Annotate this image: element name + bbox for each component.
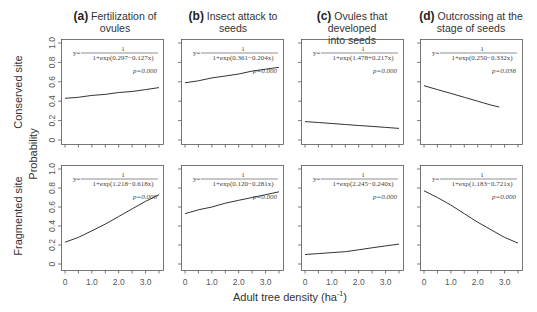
panel-c-conserved: y=11+exp(1.478+0.217x)p=0.000 [298, 40, 404, 148]
panel-d-conserved: y=11+exp(0.250−0.332x)p=0.038 [417, 40, 523, 148]
equation-denominator: 1+exp(2.245−0.240x) [332, 180, 394, 188]
plots-canvas: 00.20.40.60.81.0y=11+exp(0.297−0.127x)p=… [0, 0, 537, 312]
x-tick-label: 0 [303, 277, 308, 287]
y-tick-label: 0.6 [47, 76, 57, 88]
x-tick-label: 3.0 [140, 277, 152, 287]
equation-denominator: 1+exp(1.478+0.217x) [332, 54, 394, 62]
p-value: p=0.000 [132, 67, 157, 75]
equation-lhs: y= [432, 49, 440, 57]
figure: (a) Fertilization of ovules (b) Insect a… [0, 0, 537, 312]
y-tick-label: 0 [47, 137, 57, 142]
panel-c-fragmented: 01.02.03.0y=11+exp(2.245−0.240x)p=0.000 [298, 166, 404, 288]
panel-a-conserved: 00.20.40.60.81.0y=11+exp(0.297−0.127x)p=… [47, 37, 163, 148]
x-tick-label: 3.0 [260, 277, 272, 287]
equation-numerator: 1 [480, 171, 484, 179]
p-value: p=0.038 [491, 67, 516, 75]
x-tick-label: 1.0 [445, 277, 457, 287]
equation-denominator: 1+exp(0.120−0.281x) [212, 180, 274, 188]
panel-b-conserved: y=11+exp(0.361−0.204x)p=0.000 [178, 40, 284, 148]
y-tick-label: 0.8 [47, 182, 57, 194]
equation-denominator: 1+exp(1.218−0.618x) [92, 180, 154, 188]
fitted-curve [65, 195, 159, 243]
y-tick-label: 1.0 [47, 163, 57, 175]
panel-b-fragmented: 01.02.03.0y=11+exp(0.120−0.281x)p=0.000 [178, 166, 284, 288]
equation-numerator: 1 [241, 45, 245, 53]
y-tick-label: 0.2 [47, 114, 57, 126]
y-tick-label: 0.4 [47, 220, 57, 232]
y-tick-label: 0.8 [47, 56, 57, 68]
p-value: p=0.000 [372, 67, 397, 75]
x-tick-label: 3.0 [380, 277, 392, 287]
x-tick-label: 1.0 [86, 277, 98, 287]
equation-lhs: y= [432, 175, 440, 183]
x-tick-label: 0 [422, 277, 427, 287]
equation-denominator: 1+exp(0.297−0.127x) [92, 54, 154, 62]
fitted-curve [65, 88, 159, 99]
equation-numerator: 1 [121, 45, 125, 53]
x-tick-label: 1.0 [206, 277, 218, 287]
x-tick-label: 2.0 [353, 277, 365, 287]
equation-numerator: 1 [480, 45, 484, 53]
equation-lhs: y= [193, 175, 201, 183]
y-tick-label: 0.6 [47, 201, 57, 213]
p-value: p=0.000 [372, 193, 397, 201]
x-tick-label: 2.0 [233, 277, 245, 287]
y-tick-label: 0 [47, 261, 57, 266]
p-value: p=0.000 [491, 193, 516, 201]
equation-lhs: y= [313, 175, 321, 183]
fitted-curve [424, 86, 499, 107]
equation-lhs: y= [73, 49, 81, 57]
equation-numerator: 1 [361, 45, 365, 53]
panel-d-fragmented: 01.02.03.0y=11+exp(1.183−0.721x)p=0.000 [417, 166, 523, 288]
x-tick-label: 2.0 [472, 277, 484, 287]
equation-lhs: y= [73, 175, 81, 183]
y-tick-label: 0.4 [47, 95, 57, 107]
equation-denominator: 1+exp(0.361−0.204x) [212, 54, 274, 62]
y-tick-label: 0.2 [47, 239, 57, 251]
equation-numerator: 1 [121, 171, 125, 179]
x-tick-label: 1.0 [326, 277, 338, 287]
equation-denominator: 1+exp(1.183−0.721x) [451, 180, 513, 188]
equation-lhs: y= [313, 49, 321, 57]
panel-a-fragmented: 00.20.40.60.81.001.02.03.0y=11+exp(1.218… [47, 163, 163, 287]
x-tick-label: 3.0 [499, 277, 511, 287]
x-tick-label: 2.0 [113, 277, 125, 287]
equation-numerator: 1 [241, 171, 245, 179]
fitted-curve [185, 192, 279, 214]
equation-denominator: 1+exp(0.250−0.332x) [451, 54, 513, 62]
x-tick-label: 0 [63, 277, 68, 287]
fitted-curve [305, 244, 399, 254]
equation-numerator: 1 [361, 171, 365, 179]
fitted-curve [305, 122, 399, 129]
fitted-curve [185, 67, 279, 83]
equation-lhs: y= [193, 49, 201, 57]
y-tick-label: 1.0 [47, 37, 57, 49]
x-tick-label: 0 [183, 277, 188, 287]
